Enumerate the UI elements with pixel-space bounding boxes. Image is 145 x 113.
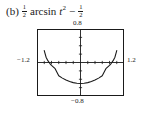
graph-figure: 0.8 −0.8 −1.2 1.2 [0, 0, 145, 113]
plot-canvas [37, 29, 124, 96]
y-axis-max-label: 0.8 [73, 19, 82, 27]
y-axis-min-label: −0.8 [71, 97, 84, 105]
x-axis-max-label: 1.2 [127, 56, 136, 64]
axes-group [37, 29, 124, 96]
x-axis-min-label: −1.2 [17, 56, 30, 64]
